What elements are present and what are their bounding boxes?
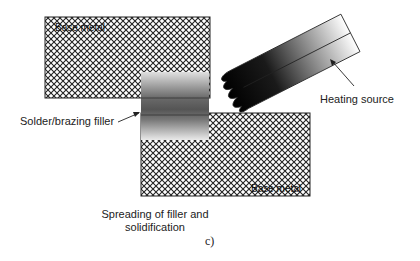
- caption-line-1: Spreading of filler and: [80, 208, 230, 221]
- filler-region: [141, 72, 209, 140]
- heating-arrow: [330, 59, 354, 86]
- panel-label: c): [205, 234, 214, 249]
- caption: Spreading of filler and solidification: [80, 208, 230, 234]
- heating-source-label: Heating source: [320, 93, 394, 106]
- caption-line-2: solidification: [80, 221, 230, 234]
- filler-arrow: [118, 112, 140, 122]
- filler-label: Solder/brazing filler: [20, 115, 114, 128]
- bottom-base-metal-label: Base metal: [251, 183, 301, 195]
- top-base-metal-label: Base metal: [55, 22, 105, 34]
